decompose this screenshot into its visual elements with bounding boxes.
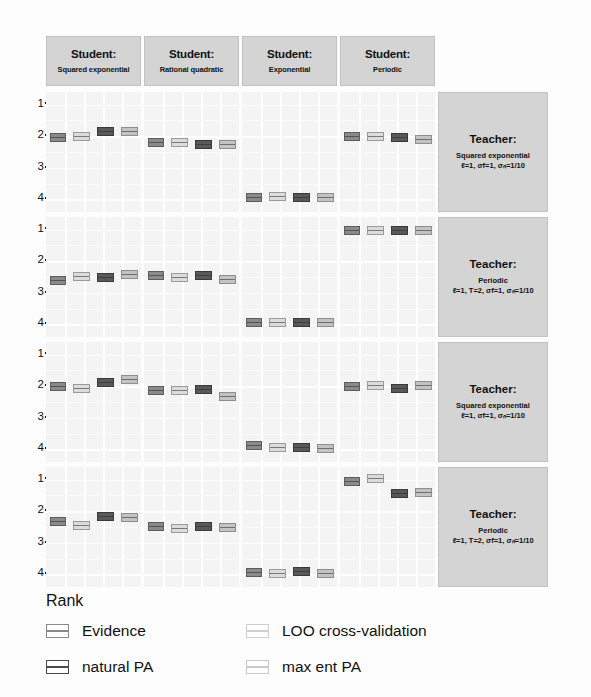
gridline-horizontal	[144, 199, 239, 201]
box-median-line	[220, 279, 235, 280]
gridline-vertical	[65, 342, 67, 462]
row-header-subtitle: Periodic	[478, 526, 508, 536]
plot-panel-r4-c2	[144, 467, 239, 587]
box-median-line	[149, 275, 164, 276]
gridline-horizontal-minor	[242, 120, 337, 121]
y-tick-label: 1	[22, 473, 44, 485]
plot-panel-r4-c1	[46, 467, 141, 587]
gridline-vertical	[416, 467, 418, 587]
gridline-horizontal	[340, 574, 435, 576]
box-plot-loo	[73, 132, 90, 141]
gridline-horizontal-minor	[242, 152, 337, 153]
gridline-horizontal-minor	[144, 152, 239, 153]
box-plot-loo	[269, 192, 286, 201]
box-plot-loo	[269, 318, 286, 327]
box-median-line	[172, 142, 187, 143]
box-median-line	[172, 277, 187, 278]
y-tick-label: 2	[22, 129, 44, 141]
box-plot-loo	[367, 474, 384, 483]
gridline-vertical	[397, 342, 399, 462]
gridline-vertical	[182, 92, 184, 212]
gridline-horizontal-minor	[340, 370, 435, 371]
plot-panel-r2-c3	[242, 217, 337, 337]
y-tick-label: 2	[22, 504, 44, 516]
row-header-params: ℓ=1, T=2, σf=1, σₙ=1/10	[452, 536, 533, 546]
legend-item-evidence[interactable]: Evidence	[46, 622, 146, 640]
gridline-horizontal-minor	[340, 184, 435, 185]
gridline-horizontal	[144, 261, 239, 263]
gridline-horizontal-minor	[46, 434, 141, 435]
box-plot-maxent	[121, 127, 138, 136]
box-plot-loo	[367, 381, 384, 390]
gridline-vertical	[122, 92, 124, 212]
plot-panel-r4-c3	[242, 467, 337, 587]
box-median-line	[294, 571, 309, 572]
box-plot-evidence	[50, 133, 67, 142]
box-plot-natural	[293, 318, 310, 327]
box-plot-evidence	[50, 276, 67, 285]
gridline-horizontal-minor	[46, 152, 141, 153]
legend-item-loo[interactable]: LOO cross-validation	[246, 622, 427, 640]
row-header-1: Teacher:Squared exponentialℓ=1, σf=1, σₙ…	[438, 92, 548, 212]
plot-panel-r2-c2	[144, 217, 239, 337]
box-plot-natural	[293, 193, 310, 202]
plot-panel-r2-c1	[46, 217, 141, 337]
gridline-horizontal	[242, 418, 337, 420]
gridline-horizontal-minor	[242, 559, 337, 560]
legend-swatch-maxent-icon	[246, 660, 269, 674]
box-plot-natural	[391, 133, 408, 142]
gridline-horizontal-minor	[144, 184, 239, 185]
box-plot-maxent	[317, 569, 334, 578]
box-plot-loo	[367, 226, 384, 235]
gridline-horizontal	[242, 168, 337, 170]
gridline-vertical	[103, 342, 105, 462]
gridline-vertical	[163, 92, 165, 212]
gridline-vertical	[201, 92, 203, 212]
box-median-line	[345, 230, 360, 231]
gridline-horizontal	[340, 449, 435, 451]
gridline-vertical	[201, 342, 203, 462]
box-plot-loo	[73, 384, 90, 393]
box-plot-maxent	[219, 140, 236, 149]
y-tick-label: 3	[22, 286, 44, 298]
plot-panel-r3-c1	[46, 342, 141, 462]
box-plot-loo	[73, 272, 90, 281]
box-median-line	[294, 197, 309, 198]
y-tick-label: 1	[22, 98, 44, 110]
gridline-horizontal	[242, 355, 337, 357]
box-median-line	[51, 521, 66, 522]
box-plot-natural	[195, 385, 212, 394]
box-median-line	[122, 379, 137, 380]
gridline-vertical	[397, 92, 399, 212]
gridline-horizontal	[242, 261, 337, 263]
y-tick-label: 3	[22, 161, 44, 173]
column-header-2: Student:Rational quadratic	[144, 36, 239, 86]
box-plot-evidence	[148, 386, 165, 395]
box-median-line	[98, 516, 113, 517]
box-plot-evidence	[246, 568, 263, 577]
box-plot-loo	[171, 273, 188, 282]
row-header-title: Teacher:	[469, 508, 516, 520]
box-plot-natural	[391, 489, 408, 498]
gridline-horizontal-minor	[46, 370, 141, 371]
gridline-horizontal	[144, 105, 239, 107]
box-median-line	[172, 528, 187, 529]
gridline-horizontal-minor	[340, 527, 435, 528]
gridline-vertical	[84, 92, 86, 212]
box-plot-natural	[195, 522, 212, 531]
box-plot-loo	[171, 524, 188, 533]
gridline-horizontal	[144, 230, 239, 232]
gridline-vertical	[84, 342, 86, 462]
column-header-4: Student:Periodic	[340, 36, 435, 86]
plot-panel-r1-c2	[144, 92, 239, 212]
box-plot-natural	[391, 226, 408, 235]
gridline-horizontal-minor	[46, 559, 141, 560]
gridline-horizontal-minor	[144, 245, 239, 246]
gridline-horizontal	[144, 511, 239, 513]
box-plot-evidence	[148, 522, 165, 531]
box-median-line	[368, 385, 383, 386]
box-median-line	[270, 447, 285, 448]
legend-item-maxent[interactable]: max ent PA	[246, 658, 361, 676]
legend-item-natural[interactable]: natural PA	[46, 658, 153, 676]
gridline-vertical	[220, 342, 222, 462]
